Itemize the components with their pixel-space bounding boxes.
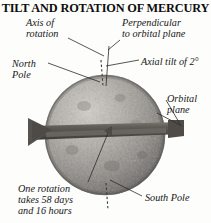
label-perpendicular-to-orbital-plane: Perpendicular to orbital plane [122,17,185,39]
leader-perpendicular [108,40,120,50]
mercury-tilt-rotation-figure: TILT AND ROTATION OF MERCURY [0,0,211,223]
label-axis-of-rotation-line2: rotation [26,28,58,39]
label-axis-of-rotation-line1: Axis of [26,17,58,28]
label-orbital-plane-line2: plane [167,104,197,115]
label-axial-tilt: Axial tilt of 2° [141,56,199,67]
label-south-pole: South Pole [145,192,189,203]
label-axis-of-rotation: Axis of rotation [26,17,58,39]
label-rotation-period-line1: One rotation [18,183,73,194]
leader-axial-tilt [106,60,139,66]
label-north-pole-line2: Pole [12,69,36,80]
label-rotation-period-line2: takes 58 days [18,194,73,205]
label-north-pole: North Pole [12,58,36,80]
leader-axis-of-rotation [68,38,104,56]
label-perpendicular-line1: Perpendicular [122,17,185,28]
label-perpendicular-line2: to orbital plane [122,28,185,39]
label-orbital-plane: Orbital plane [167,93,197,115]
label-rotation-period-line3: and 16 hours [18,205,73,216]
label-rotation-period: One rotation takes 58 days and 16 hours [18,183,73,217]
label-orbital-plane-line1: Orbital [167,93,197,104]
leader-north-pole [48,63,100,82]
label-north-pole-line1: North [12,58,36,69]
